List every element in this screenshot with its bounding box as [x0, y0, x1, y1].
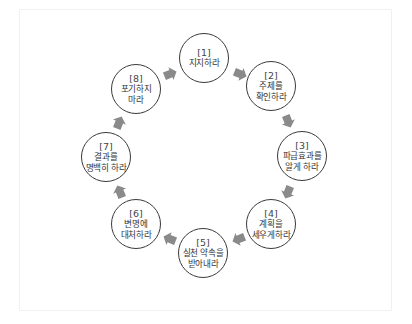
cycle-node-6: [6] 변명에 대처하라: [111, 199, 161, 249]
arrow-icon: [230, 230, 247, 248]
node-label: 대처하라: [121, 230, 152, 241]
node-label: 주제를: [259, 81, 282, 92]
node-label: 확인하라: [256, 92, 287, 103]
node-label: 계획을: [259, 219, 282, 230]
node-label: 포기하지: [121, 84, 152, 95]
node-number: [8]: [129, 73, 142, 84]
node-number: [2]: [264, 70, 277, 81]
node-label: 지지하라: [189, 58, 220, 69]
node-number: [1]: [197, 47, 210, 58]
node-number: [6]: [129, 208, 142, 219]
node-number: [7]: [99, 141, 112, 152]
node-label: 마라: [128, 95, 143, 106]
node-label: 알게 하라: [285, 162, 318, 173]
node-label: 실천 약속을: [183, 248, 224, 259]
arrow-icon: [279, 113, 297, 130]
arrow-icon: [279, 184, 297, 201]
node-label: 결과를: [94, 152, 117, 163]
cycle-node-5: [5] 실천 약속을 받아내라: [178, 228, 228, 278]
arrow-icon: [110, 114, 128, 131]
cycle-node-1: [1] 지지하라: [179, 33, 229, 83]
node-label: 세우게하라: [252, 230, 291, 241]
node-label: 명백히 하라: [86, 163, 127, 174]
node-label: 파급효과를: [283, 151, 322, 162]
cycle-node-8: [8] 포기하지 마라: [111, 64, 161, 114]
node-label: 변명에: [124, 219, 147, 230]
arrow-icon: [161, 230, 178, 248]
arrow-icon: [162, 65, 179, 83]
node-number: [3]: [295, 140, 308, 151]
cycle-node-7: [7] 결과를 명백히 하라: [81, 132, 131, 182]
cycle-node-3: [3] 파급효과를 알게 하라: [277, 131, 327, 181]
cycle-node-2: [2] 주제를 확인하라: [246, 61, 296, 111]
cycle-node-4: [4] 계획을 세우게하라: [246, 199, 296, 249]
node-number: [4]: [264, 208, 277, 219]
node-number: [5]: [196, 237, 209, 248]
arrow-icon: [111, 183, 129, 200]
node-label: 받아내라: [188, 259, 219, 270]
